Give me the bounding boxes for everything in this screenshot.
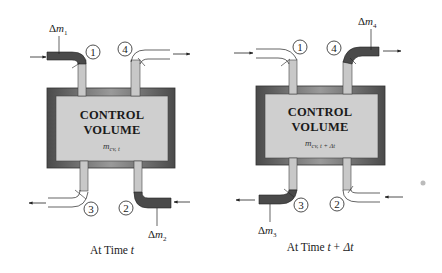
svg-text:3: 3 <box>88 203 94 215</box>
mass-label-1: Δm1 <box>49 22 68 37</box>
mass-label-3: Δm3 <box>258 224 277 239</box>
cv-title-line1: CONTROL <box>288 105 353 119</box>
pipe-1: Δm1 1 <box>30 22 100 96</box>
cv-title-line2: VOLUME <box>83 123 140 137</box>
panel-time-t-plus-dt: 1 Δm4 4 Δm3 3 <box>234 15 426 253</box>
cv-title-line2: VOLUME <box>291 120 348 134</box>
svg-text:2: 2 <box>334 198 340 210</box>
svg-text:1: 1 <box>90 46 96 58</box>
cv-title-line1: CONTROL <box>80 108 145 122</box>
caption-time-t: At Time t <box>90 244 135 256</box>
svg-text:4: 4 <box>122 43 128 55</box>
panel-time-t: Δm1 1 4 3 <box>29 22 190 256</box>
mass-element-3 <box>259 190 297 204</box>
pipe-3: 3 <box>29 161 98 216</box>
pipe-2: 2 <box>330 158 403 211</box>
stray-dot <box>421 181 426 186</box>
pipe-3: Δm3 3 <box>236 158 308 239</box>
svg-text:2: 2 <box>123 202 129 214</box>
mass-element-2 <box>134 192 171 208</box>
mass-label-4: Δm4 <box>358 15 377 30</box>
mass-label-2: Δm2 <box>148 228 167 243</box>
caption-time-t-plus-dt: At Time t+ Δt <box>287 241 355 253</box>
svg-text:3: 3 <box>298 199 304 211</box>
control-volume-diagram: Δm1 1 4 3 <box>0 0 442 273</box>
mass-element-4 <box>343 47 379 64</box>
svg-text:4: 4 <box>331 42 337 54</box>
svg-text:1: 1 <box>297 41 303 53</box>
pipe-4: Δm4 4 <box>327 15 401 94</box>
mass-element-1 <box>47 52 86 64</box>
pipe-2: Δm2 2 <box>119 161 190 243</box>
